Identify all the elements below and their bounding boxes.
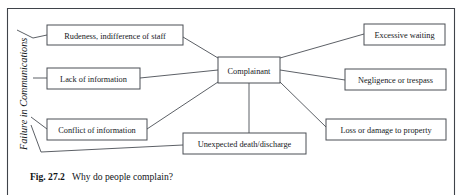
connector-complainant-to-negligence [280, 70, 345, 80]
node-unexpected-death-discharge[interactable]: Unexpected death/discharge [183, 133, 306, 154]
node-excessive-waiting[interactable]: Excessive waiting [364, 24, 445, 45]
connector-spine-to-conflict [31, 117, 47, 129]
node-complainant-label: Complainant [228, 67, 272, 76]
figure-caption-text: Why do people complain? [72, 171, 173, 182]
connector-spine-to-rudeness [17, 30, 47, 38]
node-excessive-waiting-label: Excessive waiting [374, 31, 434, 40]
connector-conflict-to-complainant [147, 82, 218, 129]
figure-panel: Failure in Communications Rudeness, indi… [0, 0, 465, 195]
node-complainant[interactable]: Complainant [218, 57, 280, 83]
complaint-cause-diagram: Failure in Communications Rudeness, indi… [0, 0, 465, 195]
node-negligence-or-trespass[interactable]: Negligence or trespass [345, 69, 446, 90]
connector-complainant-to-waiting [280, 34, 364, 58]
node-loss-or-damage-to-property[interactable]: Loss or damage to property [326, 119, 446, 140]
node-conflict-of-information[interactable]: Conflict of information [47, 119, 147, 140]
node-rudeness-label: Rudeness, indifference of staff [64, 32, 166, 41]
connector-rudeness-to-complainant [183, 37, 218, 58]
node-lack-of-information[interactable]: Lack of information [47, 68, 140, 89]
connector-lack-to-complainant [140, 70, 218, 78]
node-conflict-of-information-label: Conflict of information [58, 126, 136, 135]
figure-caption-label: Fig. 27.2 [30, 171, 65, 182]
node-rudeness[interactable]: Rudeness, indifference of staff [47, 25, 183, 45]
node-unexpected-death-discharge-label: Unexpected death/discharge [198, 140, 292, 149]
axis-label-failure-in-communications: Failure in Communications [18, 38, 29, 151]
node-loss-or-damage-to-property-label: Loss or damage to property [340, 126, 432, 135]
node-negligence-or-trespass-label: Negligence or trespass [358, 76, 433, 85]
connector-complainant-to-loss [280, 82, 326, 127]
node-lack-of-information-label: Lack of information [60, 75, 128, 84]
